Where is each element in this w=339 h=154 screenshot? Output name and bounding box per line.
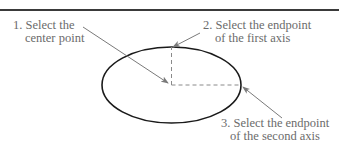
step-2-label: 2. Select the endpoint of the first axis: [203, 19, 311, 45]
step-3-line-2: of the second axis: [221, 130, 329, 143]
arrow-to-first-axis-endpoint: [173, 33, 200, 47]
arrow-to-second-axis-endpoint: [243, 87, 282, 118]
step-2-line-2: of the first axis: [203, 32, 311, 45]
step-1-label: 1. Select the center point: [13, 19, 84, 45]
arrow-to-center: [83, 27, 168, 83]
step-3-label: 3. Select the endpoint of the second axi…: [221, 117, 329, 143]
step-1-line-2: center point: [13, 32, 84, 45]
